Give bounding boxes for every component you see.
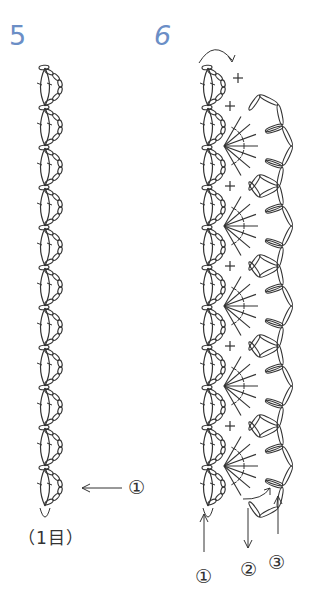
figure-5-chart xyxy=(37,65,63,517)
motif xyxy=(200,465,226,506)
row-2-label: ② xyxy=(240,560,257,579)
motif xyxy=(37,425,63,466)
motif xyxy=(200,145,226,186)
fan xyxy=(224,333,294,438)
motif xyxy=(200,425,226,466)
motif xyxy=(37,225,63,266)
motif xyxy=(200,385,226,426)
motif xyxy=(200,65,226,106)
motif xyxy=(37,105,63,146)
fan xyxy=(224,253,294,358)
motif xyxy=(37,345,63,386)
motif xyxy=(37,465,63,506)
motif xyxy=(200,105,226,146)
row-3-label: ③ xyxy=(268,553,285,572)
motif xyxy=(200,225,226,266)
figure-6-chart xyxy=(200,65,294,519)
motif xyxy=(200,305,226,346)
motif xyxy=(200,185,226,226)
crochet-chart xyxy=(0,0,311,590)
motif xyxy=(37,65,63,106)
motif xyxy=(37,305,63,346)
turn-arrow-icon xyxy=(199,50,232,63)
motif xyxy=(200,345,226,386)
motif xyxy=(37,185,63,226)
motif xyxy=(37,385,63,426)
fan xyxy=(224,413,294,518)
fan xyxy=(224,173,294,278)
motif xyxy=(37,145,63,186)
row-1-label: ① xyxy=(128,478,145,497)
stitch-note-label: （1目） xyxy=(18,524,84,549)
motif xyxy=(37,265,63,306)
row-1-label: ① xyxy=(195,567,212,586)
fan xyxy=(224,93,294,198)
motif xyxy=(200,265,226,306)
